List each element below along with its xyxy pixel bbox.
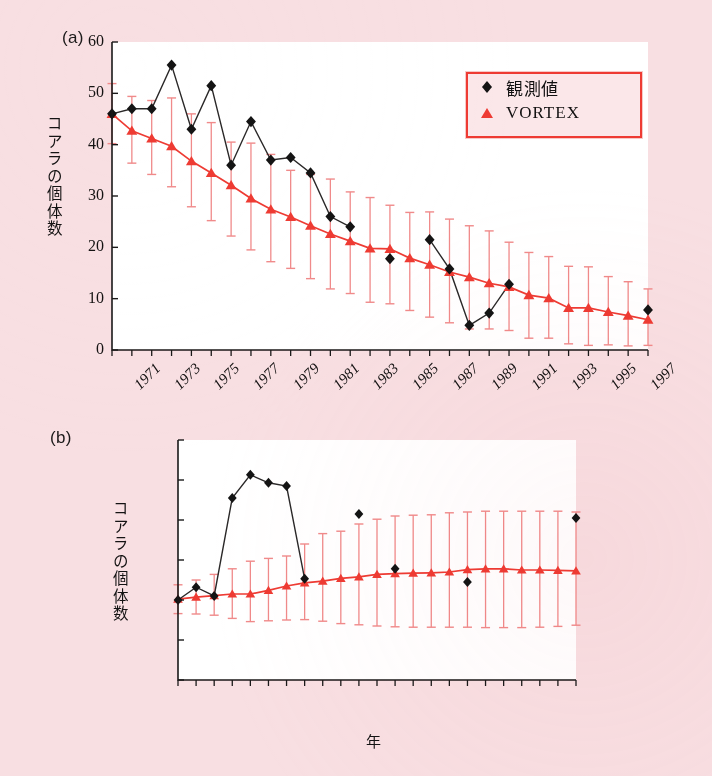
panel-b-series-canvas (178, 440, 576, 680)
x-tick-label: 1987 (448, 360, 481, 393)
panel-a-y-axis-title: コアラの個体数 (44, 115, 60, 238)
x-tick-label: 1977 (250, 360, 283, 393)
x-tick-label: 1989 (488, 360, 521, 393)
x-tick-label: 1983 (369, 360, 402, 393)
x-tick-label: 1971 (131, 360, 164, 393)
legend-entry-vortex: VORTEX (468, 100, 640, 126)
panel-b-tag: (b) (50, 428, 72, 448)
x-tick-label: 1985 (409, 360, 442, 393)
y-tick-label: 30 (68, 186, 104, 204)
x-tick-label: 1993 (568, 360, 601, 393)
panel-b: (b) コアラの個体数 0102030405060 19761980198419… (0, 400, 712, 776)
x-tick-label: 1975 (210, 360, 243, 393)
panel-b-x-axis-title: 年 (366, 730, 381, 751)
panel-a: (a) コアラの個体数 0102030405060 19711973197519… (0, 0, 712, 400)
legend-panel-a: 観測値 VORTEX (466, 72, 642, 138)
x-tick-label: 1979 (290, 360, 323, 393)
triangle-icon (478, 104, 496, 122)
x-tick-label: 1981 (329, 360, 362, 393)
panel-b-plot-area (178, 440, 576, 680)
legend-label-vortex: VORTEX (506, 103, 580, 123)
series-line-vortex (112, 114, 648, 320)
x-tick-label: 1991 (528, 360, 561, 393)
x-tick-label: 1997 (647, 360, 680, 393)
diamond-icon (478, 78, 496, 96)
y-tick-label: 10 (68, 289, 104, 307)
x-tick-label: 1973 (170, 360, 203, 393)
legend-entry-observed: 観測値 (468, 74, 640, 100)
y-tick-label: 60 (68, 32, 104, 50)
figure-root: (a) コアラの個体数 0102030405060 19711973197519… (0, 0, 712, 776)
y-tick-label: 50 (68, 83, 104, 101)
x-tick-label: 1995 (607, 360, 640, 393)
y-tick-label: 0 (68, 340, 104, 358)
panel-b-y-axis-title: コアラの個体数 (110, 500, 126, 623)
y-tick-label: 20 (68, 237, 104, 255)
y-tick-label: 40 (68, 135, 104, 153)
markers-vortex (107, 109, 654, 324)
legend-label-observed: 観測値 (506, 75, 559, 100)
